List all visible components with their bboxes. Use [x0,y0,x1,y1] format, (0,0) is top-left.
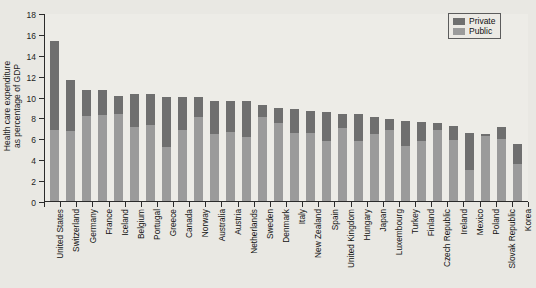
bar-segment-private [66,80,75,131]
x-axis-labels: United StatesSwitzerlandGermanyFranceIce… [44,208,528,288]
y-axis-tick-label: 4 [31,156,36,166]
bar-segment-private [258,105,267,118]
legend-swatch-private [453,18,465,25]
y-axis-tick: 6 [39,139,45,140]
x-axis-label-text: Italy [297,208,307,224]
x-axis-label-text: Poland [491,208,501,235]
x-axis-label-text: Netherlands [249,208,259,254]
bar-segment-private [194,97,203,118]
x-axis-label-france: France [104,181,114,208]
legend-item-private: Private [453,17,495,25]
legend-label-public: Public [469,27,492,35]
bar-segment-private [130,94,139,126]
legend-item-public: Public [453,27,495,35]
x-axis-label-switzerland: Switzerland [71,164,81,208]
bar-segment-private [274,108,283,123]
y-axis-tick: 18 [39,14,45,15]
y-axis-tick-label: 10 [27,94,36,104]
x-axis-label-text: Slovak Republic [507,208,517,269]
bar-segment-private [50,41,59,130]
x-axis-label-text: Belgium [136,208,146,239]
chart-legend: Private Public [448,13,501,39]
x-axis-label-text: Finland [426,208,436,236]
x-axis-label-italy: Italy [297,192,307,208]
x-axis-label-text: Sweden [265,208,275,239]
y-axis-tick: 12 [39,77,45,78]
bar-segment-private [162,97,171,147]
x-axis-label-text: Turkey [410,208,420,234]
x-axis-label-united-kingdom: United Kingdom [346,148,356,208]
bar-segment-private [385,119,394,130]
y-axis-tick-label: 6 [31,135,36,145]
y-axis-title: Health care expenditure as percentage of… [2,6,22,206]
bar-segment-private [178,97,187,130]
x-axis-label-text: Ireland [459,208,469,234]
x-axis-label-hungary: Hungary [362,176,372,208]
x-axis-label-netherlands: Netherlands [249,162,259,208]
bar-segment-private [98,90,107,115]
y-axis-tick: 16 [39,35,45,36]
x-axis-label-text: Greece [168,208,178,236]
bar-segment-private [210,101,219,134]
x-axis-label-luxembourg: Luxembourg [394,161,404,208]
x-axis-label-sweden: Sweden [265,177,275,208]
x-axis-label-austria: Austria [233,181,243,208]
bar-segment-private [370,117,379,134]
bar-segment-private [449,126,458,141]
x-axis-label-finland: Finland [426,180,436,208]
x-axis-label-text: Spain [330,208,340,230]
x-axis-label-text: Czech Republic [442,208,452,267]
x-axis-label-mexico: Mexico [475,181,485,208]
bar-segment-private [114,96,123,115]
x-axis-label-text: Korea [523,208,533,231]
x-axis-label-text: Austria [233,208,243,235]
x-axis-label-ireland: Ireland [459,182,469,208]
x-axis-label-text: Iceland [120,208,130,236]
bar-segment-private [465,133,474,170]
bar-segment-private [82,90,91,116]
x-axis-label-text: Australia [217,208,227,241]
bar-segment-private [242,101,251,138]
bar-segment-private [226,101,235,132]
x-axis-label-text: Canada [184,208,194,238]
x-axis-label-text: Portugal [152,208,162,240]
bar-segment-private [433,123,442,130]
x-axis-label-spain: Spain [330,186,340,208]
bar-segment-private [338,114,347,128]
y-axis-tick: 4 [39,160,45,161]
y-axis-tick-label: 2 [31,177,36,187]
x-axis-label-text: Mexico [475,208,485,235]
bar-segment-private [497,127,506,140]
y-axis-tick-label: 18 [27,10,36,20]
x-axis-label-australia: Australia [217,175,227,208]
y-axis-tick-label: 8 [31,114,36,124]
bar-segment-private [306,111,315,133]
x-axis-label-text: Denmark [281,208,291,243]
x-axis-label-text: Luxembourg [394,208,404,255]
x-axis-label-text: New Zealand [313,208,323,258]
x-axis-label-korea: Korea [523,185,533,208]
x-axis-label-text: France [104,208,114,235]
y-axis-tick-label: 16 [27,31,36,41]
x-axis-label-belgium: Belgium [136,177,146,208]
bar-segment-private [290,109,299,133]
bar-segment-private [354,114,363,141]
x-axis-label-germany: Germany [88,173,98,208]
x-axis-label-united-states: United States [55,157,65,208]
x-axis-label-text: Switzerland [71,208,81,252]
x-axis-label-text: United States [55,208,65,259]
legend-label-private: Private [469,17,495,25]
x-axis-label-text: Hungary [362,208,372,240]
x-axis-label-greece: Greece [168,180,178,208]
x-axis-label-japan: Japan [378,184,388,208]
x-axis-label-iceland: Iceland [120,180,130,208]
x-axis-label-new-zealand: New Zealand [313,158,323,208]
y-axis-tick-label: 14 [27,52,36,62]
y-axis-tick-label: 0 [31,198,36,208]
bar-segment-private [417,122,426,142]
x-axis-label-canada: Canada [184,178,194,208]
x-axis-label-text: United Kingdom [346,208,356,268]
y-axis-tick: 2 [39,181,45,182]
legend-swatch-public [453,28,465,35]
health-expenditure-chart: Health care expenditure as percentage of… [0,0,536,288]
